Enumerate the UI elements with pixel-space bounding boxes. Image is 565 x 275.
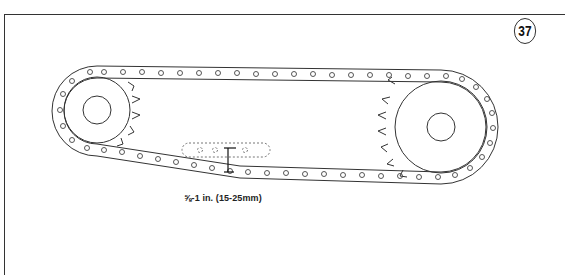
- lifted-chain-dashed: [182, 143, 270, 157]
- large-sprocket: [378, 77, 487, 177]
- slack-measurement-label: ⅝-1 in. (15-25mm): [184, 193, 262, 203]
